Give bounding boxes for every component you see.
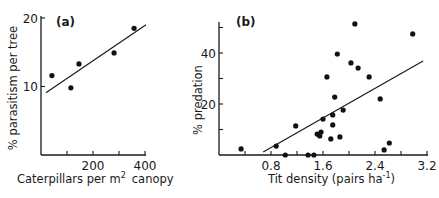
- panel-b-data-point: [318, 129, 323, 134]
- panel-b-x-tick-label: 1.6: [313, 159, 332, 173]
- panel-b-y-tick-label: 20: [201, 98, 216, 112]
- panel-b: (b) % predation Tit density (pairs ha-1)…: [191, 15, 437, 186]
- panel-b-data-point: [337, 134, 342, 139]
- panel-b-data-point: [352, 21, 357, 26]
- panel-a-x-tick-label: 400: [134, 159, 157, 173]
- panel-a-data-point: [131, 26, 136, 31]
- panel-a-data-point: [49, 73, 54, 78]
- panel-b-data-point: [283, 152, 288, 157]
- figure: (a) % parasitism per tree Caterpillars p…: [0, 0, 439, 198]
- panel-b-regression-line: [263, 61, 423, 152]
- panel-b-x-axis-title: Tit density (pairs ha-1): [267, 171, 395, 186]
- panel-a-regression-line: [46, 25, 146, 93]
- panel-b-x-axis-title-suffix: ): [391, 172, 396, 186]
- panel-b-data-point: [320, 116, 325, 121]
- panel-b-data-point: [410, 31, 415, 36]
- panel-a-data-point: [76, 61, 81, 66]
- panel-b-x-tick-label: 3.2: [417, 159, 436, 173]
- panel-a-data-point: [68, 85, 73, 90]
- panel-b-data-point: [382, 147, 387, 152]
- panel-a-x-axis-title-main: Caterpillars per m: [17, 172, 121, 186]
- panel-a-x-axis-title-suffix: canopy: [132, 172, 174, 186]
- panel-b-data-point: [348, 60, 353, 65]
- panel-b-data-point: [293, 123, 298, 128]
- panel-b-data-point: [387, 140, 392, 145]
- panel-b-x-axis-title-main: Tit density (pairs ha: [267, 172, 383, 186]
- panel-b-data-point: [328, 136, 333, 141]
- panel-b-x-tick-label: 0.8: [261, 159, 280, 173]
- panel-a-y-tick-label: 10: [23, 80, 38, 94]
- panel-b-x-tick-label: 2.4: [365, 159, 384, 173]
- panel-a-y-axis-title: % parasitism per tree: [6, 26, 20, 150]
- panel-a-label: (a): [56, 15, 75, 29]
- panel-b-data-point: [378, 96, 383, 101]
- panel-b-y-tick-label: 40: [201, 47, 216, 61]
- panel-a-x-axis-title-sup: 2: [121, 171, 126, 180]
- panel-b-data-point: [332, 95, 337, 100]
- panel-b-data-point: [356, 65, 361, 70]
- panel-b-data-point: [335, 51, 340, 56]
- panel-b-data-point: [330, 112, 335, 117]
- panel-b-data-point: [330, 122, 335, 127]
- panel-b-data-point: [274, 143, 279, 148]
- panel-b-data-point: [367, 74, 372, 79]
- panel-b-data-point: [324, 74, 329, 79]
- panel-b-data-point: [239, 146, 244, 151]
- panel-b-data-point: [311, 152, 316, 157]
- panel-a-x-axis-title: Caterpillars per m2canopy: [17, 171, 174, 186]
- panel-b-data-point: [305, 152, 310, 157]
- panel-b-data-point: [341, 108, 346, 113]
- panel-a-y-tick-label: 20: [23, 12, 38, 26]
- panel-a: (a) % parasitism per tree Caterpillars p…: [6, 12, 174, 187]
- panel-a-x-tick-label: 200: [82, 159, 105, 173]
- panel-b-label: (b): [236, 15, 256, 29]
- panel-a-data-point: [111, 50, 116, 55]
